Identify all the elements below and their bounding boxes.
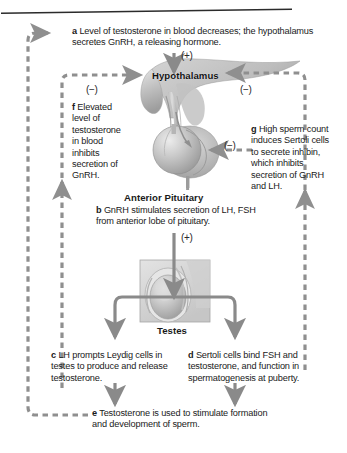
sign-minus-left-to-hypothalamus: (−) <box>86 84 98 95</box>
step-c-body: LH prompts Leydig cells in testes to pro… <box>51 350 168 383</box>
sign-minus-right-to-hypothalamus: (−) <box>240 84 252 95</box>
step-f-marker: f <box>72 102 75 112</box>
step-c-marker: c <box>51 350 56 360</box>
label-testes: Testes <box>157 325 187 336</box>
step-b-body: GnRH stimulates secretion of LH, FSH fro… <box>96 205 256 226</box>
step-d-body: Sertoli cells bind FSH and testosterone,… <box>188 350 299 383</box>
step-e-body: Testosterone is used to stimulate format… <box>92 408 267 429</box>
step-g-text: g High sperm count induces Sertoli cells… <box>251 124 331 192</box>
step-b-text: b GnRH stimulates secretion of LH, FSH f… <box>96 205 268 228</box>
step-a-text: a Level of testosterone in blood decreas… <box>72 26 334 49</box>
step-g-marker: g <box>251 124 256 134</box>
step-g-body: High sperm count induces Sertoli cells t… <box>251 124 329 191</box>
step-d-marker: d <box>188 350 193 360</box>
sign-plus-to-hypothalamus: (+) <box>181 50 193 61</box>
top-rule <box>1 9 292 13</box>
step-e-text: e Testosterone is used to stimulate form… <box>92 408 284 431</box>
step-d-text: d Sertoli cells bind FSH and testosteron… <box>188 350 334 384</box>
step-e-marker: e <box>92 408 97 418</box>
step-a-marker: a <box>72 26 77 36</box>
step-a-body: Level of testosterone in blood decreases… <box>72 26 313 47</box>
sign-plus-to-testes: (+) <box>181 232 193 243</box>
anterior-pituitary-illustration <box>153 112 219 188</box>
sign-minus-to-pituitary: (−) <box>224 140 236 151</box>
step-f-text: f Elevated level of testosterone in bloo… <box>72 102 128 182</box>
diagram-canvas: a Level of testosterone in blood decreas… <box>0 0 347 453</box>
step-b-marker: b <box>96 205 101 215</box>
step-f-body: Elevated level of testosterone in blood … <box>72 102 121 180</box>
step-c-text: c LH prompts Leydig cells in testes to p… <box>51 350 181 384</box>
label-hypothalamus: Hypothalamus <box>152 70 219 81</box>
label-anterior-pituitary: Anterior Pituitary <box>124 192 203 203</box>
